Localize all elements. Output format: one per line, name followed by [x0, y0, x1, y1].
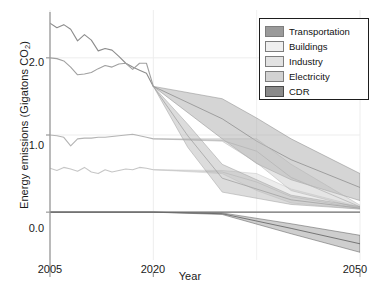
x-tick-label-2020: 2020	[128, 263, 178, 275]
chart-legend: Transportation Buildings Industry Electr…	[259, 18, 369, 100]
x-tick-label-2005: 2005	[25, 263, 75, 275]
legend-item-electricity: Electricity	[265, 69, 364, 83]
legend-item-buildings: Buildings	[265, 39, 364, 53]
legend-item-industry: Industry	[265, 54, 364, 68]
legend-item-transportation: Transportation	[265, 24, 364, 38]
emissions-chart-figure: Energy emissions (Gigatons CO2) Year 0.0…	[0, 0, 379, 292]
legend-swatch-buildings	[265, 41, 284, 52]
y-tick-label-0: 0.0	[14, 222, 44, 234]
legend-item-cdr: CDR	[265, 84, 364, 98]
y-tick-label-2: 2.0	[14, 56, 44, 68]
historical-lines	[50, 23, 153, 212]
legend-label-transportation: Transportation	[289, 26, 350, 37]
legend-label-industry: Industry	[289, 56, 323, 67]
legend-swatch-electricity	[265, 71, 284, 82]
x-tick-label-2050: 2050	[330, 263, 379, 275]
legend-swatch-cdr	[265, 86, 284, 97]
y-tick-label-1: 1.0	[14, 139, 44, 151]
legend-swatch-industry	[265, 56, 284, 67]
legend-label-cdr: CDR	[289, 86, 310, 97]
legend-swatch-transportation	[265, 26, 284, 37]
legend-label-electricity: Electricity	[289, 71, 330, 82]
legend-label-buildings: Buildings	[289, 41, 328, 52]
